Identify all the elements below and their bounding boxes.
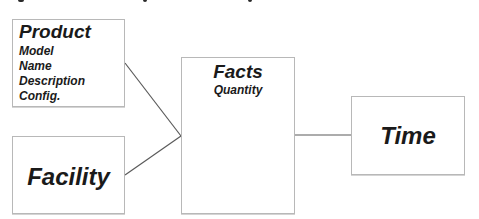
entity-time: Time bbox=[351, 96, 465, 175]
attribute-description: Description bbox=[19, 74, 124, 89]
attribute-quantity: Quantity bbox=[182, 83, 294, 98]
entity-product: Product Model Name Description Config. bbox=[12, 19, 125, 107]
entity-product-attributes: Model Name Description Config. bbox=[19, 44, 124, 104]
entity-time-title: Time bbox=[380, 122, 436, 150]
attribute-config: Config. bbox=[19, 89, 124, 104]
entity-facts: Facts Quantity bbox=[181, 57, 295, 214]
entity-facts-title: Facts bbox=[182, 61, 294, 83]
entity-facility: Facility bbox=[12, 136, 125, 214]
entity-facility-title: Facility bbox=[27, 159, 110, 191]
entity-product-title: Product bbox=[19, 21, 124, 43]
attribute-model: Model bbox=[19, 44, 124, 59]
connector-product-facts bbox=[125, 63, 181, 136]
connector-facility-facts bbox=[125, 136, 181, 175]
attribute-name: Name bbox=[19, 59, 124, 74]
